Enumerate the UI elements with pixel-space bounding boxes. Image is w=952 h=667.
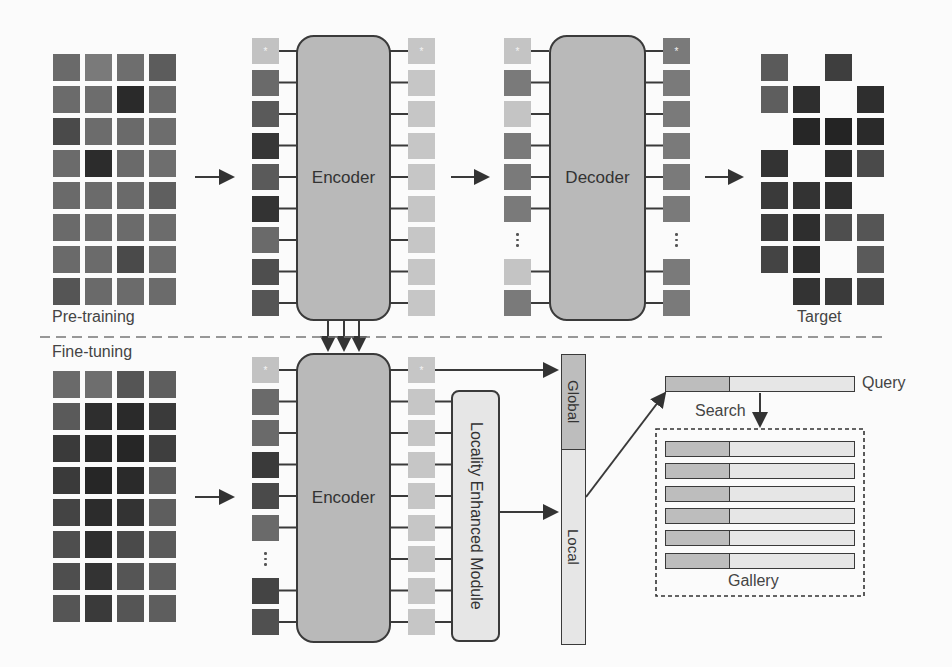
image-patch: [149, 435, 176, 462]
token: [252, 483, 279, 509]
image-patch: [149, 54, 176, 81]
image-patch: [85, 54, 112, 81]
cls-token: *: [408, 38, 435, 64]
image-patch: [761, 118, 788, 145]
token: [408, 290, 435, 316]
token: [504, 259, 531, 285]
token: [663, 133, 690, 159]
token: [252, 389, 279, 415]
image-patch: [761, 214, 788, 241]
image-patch: [149, 86, 176, 113]
cls-token: *: [408, 357, 435, 383]
image-patch: [53, 214, 80, 241]
image-patch: [149, 371, 176, 398]
token: [504, 164, 531, 190]
image-patch: [53, 182, 80, 209]
image-patch: [149, 118, 176, 145]
token: [504, 290, 531, 316]
pretrain-encoder-input-tokens: *: [252, 38, 279, 322]
image-patch: [857, 118, 884, 145]
token: [408, 227, 435, 253]
token: [408, 609, 435, 635]
image-patch: [857, 278, 884, 305]
image-patch: [117, 182, 144, 209]
token: [252, 290, 279, 316]
image-patch: [761, 150, 788, 177]
gallery-feature-bar: [665, 508, 855, 524]
image-patch: [825, 214, 852, 241]
gallery-feature-bar: [665, 553, 855, 569]
pretrain-encoder-label: Encoder: [312, 168, 375, 188]
image-patch: [53, 467, 80, 494]
token: [408, 196, 435, 222]
image-patch: [85, 150, 112, 177]
query-label: Query: [862, 374, 906, 392]
image-patch: [53, 86, 80, 113]
image-patch: [149, 403, 176, 430]
token: [504, 133, 531, 159]
image-patch: [793, 54, 820, 81]
image-patch: [85, 467, 112, 494]
image-patch: [53, 499, 80, 526]
token: [252, 515, 279, 541]
image-patch: [825, 54, 852, 81]
finetuning-label: Fine-tuning: [52, 343, 132, 361]
image-patch: [117, 214, 144, 241]
gallery-label: Gallery: [728, 572, 779, 590]
token: [252, 227, 279, 253]
image-patch: [793, 246, 820, 273]
token: [504, 70, 531, 96]
image-patch: [149, 182, 176, 209]
image-patch: [793, 86, 820, 113]
image-patch: [117, 371, 144, 398]
token: [663, 259, 690, 285]
image-patch: [85, 278, 112, 305]
token: [408, 101, 435, 127]
image-patch: [825, 86, 852, 113]
image-patch: [85, 563, 112, 590]
image-patch: [825, 278, 852, 305]
token: [408, 133, 435, 159]
finetune-input-patch-grid: [53, 371, 176, 622]
image-patch: [117, 499, 144, 526]
image-patch: [857, 182, 884, 209]
token: [408, 164, 435, 190]
image-patch: [149, 499, 176, 526]
image-patch: [85, 531, 112, 558]
token: [504, 196, 531, 222]
token: [252, 70, 279, 96]
search-label: Search: [695, 402, 746, 420]
image-patch: [117, 563, 144, 590]
image-patch: [857, 86, 884, 113]
finetune-encoder-output-tokens: *: [408, 357, 435, 641]
image-patch: [857, 150, 884, 177]
token: [252, 420, 279, 446]
image-patch: [117, 246, 144, 273]
token: [663, 101, 690, 127]
token: [252, 196, 279, 222]
arrow-feature-to-query: [586, 393, 665, 497]
image-patch: [793, 278, 820, 305]
finetune-encoder-input-tokens: *: [252, 357, 279, 641]
decoder-output-tokens: *: [663, 38, 690, 322]
token: [408, 483, 435, 509]
image-patch: [85, 118, 112, 145]
image-patch: [857, 246, 884, 273]
token: [252, 452, 279, 478]
token: [663, 196, 690, 222]
image-patch: [149, 150, 176, 177]
image-patch: [85, 403, 112, 430]
ellipsis-icon: [504, 227, 531, 253]
image-patch: [85, 246, 112, 273]
image-patch: [85, 371, 112, 398]
image-patch: [85, 182, 112, 209]
decoder-label: Decoder: [565, 168, 629, 188]
token: [408, 389, 435, 415]
pretrain-encoder-output-tokens: *: [408, 38, 435, 322]
token: [504, 101, 531, 127]
global-label: Global: [565, 380, 582, 423]
image-patch: [793, 150, 820, 177]
cls-token: *: [504, 38, 531, 64]
target-patch-grid: [761, 54, 884, 305]
pretraining-label: Pre-training: [52, 308, 135, 326]
